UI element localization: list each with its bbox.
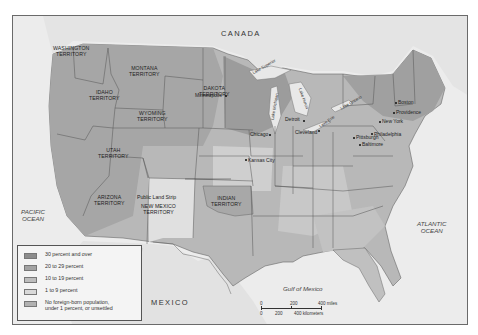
label-line: TERRITORY bbox=[89, 96, 120, 102]
legend-label: 10 to 19 percent bbox=[45, 276, 83, 282]
territory-label-idaho: IDAHOTERRITORY bbox=[89, 90, 120, 101]
ocean-line: OCEAN bbox=[21, 216, 45, 223]
legend-item: 1 to 9 percent bbox=[24, 288, 77, 295]
territory-label-montana: MONTANATERRITORY bbox=[129, 66, 160, 77]
scale-tick bbox=[321, 306, 322, 310]
city-minneapolis: Minneapolis bbox=[195, 93, 222, 98]
territory-label-wyoming: WYOMINGTERRITORY bbox=[137, 111, 168, 122]
label-line: TERRITORY bbox=[129, 72, 160, 78]
scale-km-tick: 0 bbox=[260, 311, 263, 316]
city-detroit: Detroit bbox=[285, 117, 300, 122]
legend-item: 30 percent and over bbox=[24, 252, 92, 259]
legend-swatch bbox=[24, 253, 37, 259]
pacific-ocean-label: PACIFIC OCEAN bbox=[21, 209, 45, 222]
label-line: TERRITORY bbox=[94, 201, 125, 207]
territory-label-indian: INDIANTERRITORY bbox=[211, 196, 242, 207]
mexico-label: MEXICO bbox=[151, 298, 189, 307]
legend-label: 20 to 29 percent bbox=[45, 264, 83, 270]
legend-label: 30 percent and over bbox=[45, 252, 92, 258]
scale-bar: 0 200 400 miles 0 200 400 kilometers bbox=[260, 301, 350, 321]
canada-label: CANADA bbox=[221, 29, 261, 38]
legend-item: 20 to 29 percent bbox=[24, 264, 83, 271]
legend-item: 10 to 19 percent bbox=[24, 276, 83, 283]
label-line: TERRITORY bbox=[53, 52, 89, 58]
city-new-york: New York bbox=[382, 119, 403, 124]
legend: 30 percent and over 20 to 29 percent 10 … bbox=[17, 245, 142, 321]
legend-swatch bbox=[24, 265, 37, 271]
city-philadelphia: Philadelphia bbox=[374, 132, 401, 137]
legend-swatch bbox=[24, 301, 37, 307]
city-cleveland: Cleveland bbox=[295, 130, 317, 135]
legend-swatch bbox=[24, 277, 37, 283]
territory-label-utah: UTAHTERRITORY bbox=[98, 148, 129, 159]
city-baltimore: Baltimore bbox=[362, 142, 383, 147]
ocean-line: OCEAN bbox=[417, 228, 446, 235]
label-line: TERRITORY bbox=[137, 117, 168, 123]
atlantic-ocean-label: ATLANTIC OCEAN bbox=[417, 221, 446, 234]
legend-label: 1 to 9 percent bbox=[45, 288, 77, 294]
scale-tick bbox=[291, 306, 292, 308]
map-frame: CANADA MEXICO PACIFIC OCEAN ATLANTIC OCE… bbox=[12, 15, 468, 325]
label-line: TERRITORY bbox=[211, 202, 242, 208]
scale-tick bbox=[261, 306, 262, 310]
city-boston: Boston bbox=[398, 100, 414, 105]
city-kansas-city: Kansas City bbox=[248, 158, 275, 163]
label-line: TERRITORY bbox=[98, 154, 129, 160]
gulf-of-mexico-label: Gulf of Mexico bbox=[283, 286, 323, 293]
scale-line bbox=[261, 308, 321, 309]
city-chicago: Chicago bbox=[250, 132, 268, 137]
territory-label-new-mexico: NEW MEXICOTERRITORY bbox=[141, 204, 176, 215]
territory-label-washington: WASHINGTONTERRITORY bbox=[53, 46, 89, 57]
legend-swatch bbox=[24, 289, 37, 295]
territory-label-arizona: ARIZONATERRITORY bbox=[94, 195, 125, 206]
legend-label-line2: under 1 percent, or unsettled bbox=[45, 305, 113, 311]
city-providence: Providence bbox=[396, 110, 421, 115]
label-line: TERRITORY bbox=[141, 210, 176, 216]
public-land-strip-label: Public Land Strip bbox=[137, 195, 176, 200]
legend-item: No foreign-born population,under 1 perce… bbox=[24, 300, 113, 312]
scale-km-tick: 200 bbox=[275, 311, 283, 316]
legend-label: No foreign-born population,under 1 perce… bbox=[45, 300, 113, 312]
scale-km-tick: 400 kilometers bbox=[294, 311, 323, 316]
